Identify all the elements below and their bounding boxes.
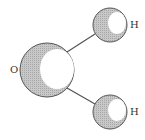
hydrogen-atom-top (93, 8, 127, 42)
hydrogen-atom-bottom (93, 95, 127, 129)
atom-label-hydrogen-top: H (130, 20, 139, 30)
bond-o-h2 (67, 88, 95, 104)
atom-label-hydrogen-bottom: H (130, 107, 139, 117)
atom-label-oxygen: O (10, 65, 18, 75)
bond-o-h1 (67, 34, 95, 52)
water-molecule-diagram (0, 0, 145, 140)
oxygen-atom (20, 43, 74, 97)
